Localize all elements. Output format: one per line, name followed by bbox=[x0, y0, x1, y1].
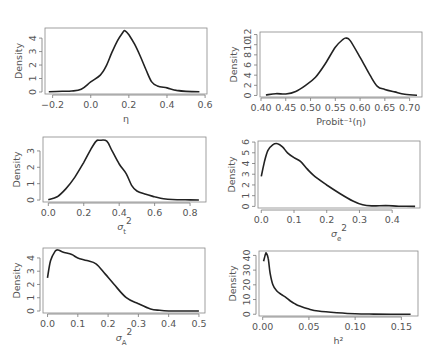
x-tick-label: 0.5 bbox=[191, 318, 206, 329]
x-axis-title: h² bbox=[334, 335, 344, 346]
x-axis-title: σA2 bbox=[116, 327, 133, 347]
x-tick-label: 0.0 bbox=[83, 99, 98, 110]
density-panel-3: 0.00.20.40.60.80123Densityσt2 bbox=[11, 137, 206, 236]
x-tick-label: 0.0 bbox=[254, 214, 269, 225]
y-tick-label: 4 bbox=[240, 160, 251, 166]
x-tick-label: 0.45 bbox=[275, 102, 296, 113]
x-tick-label: 0.2 bbox=[121, 99, 136, 110]
y-tick-label: 2 bbox=[27, 62, 38, 68]
y-tick-label: 3 bbox=[240, 171, 251, 177]
x-tick-label: 0.40 bbox=[250, 102, 271, 113]
y-tick-label: 6 bbox=[240, 139, 251, 145]
y-tick-label: 20 bbox=[241, 279, 252, 291]
x-tick-label: 0.1 bbox=[70, 318, 85, 329]
x-axis-title: η bbox=[123, 113, 129, 124]
plot-frame bbox=[45, 28, 207, 94]
density-panel-5: 0.00.10.20.30.40.501234DensityσA2 bbox=[11, 248, 206, 347]
y-tick-label: 0 bbox=[240, 203, 251, 209]
y-axis-title: Density bbox=[13, 43, 24, 79]
y-tick-label: 2 bbox=[240, 182, 251, 188]
y-tick-label: 0 bbox=[241, 311, 252, 317]
y-tick-label: 3 bbox=[25, 148, 36, 154]
density-curve bbox=[261, 144, 415, 207]
x-tick-label: 0.2 bbox=[101, 318, 116, 329]
x-tick-label: 0.4 bbox=[112, 207, 127, 218]
y-axis-title: Density bbox=[11, 151, 22, 187]
x-tick-label: 0.55 bbox=[325, 102, 346, 113]
x-tick-label: 0.0 bbox=[40, 318, 55, 329]
y-tick-label: 6 bbox=[242, 62, 253, 68]
plot-frame bbox=[259, 251, 418, 316]
x-tick-label: 0.65 bbox=[374, 102, 395, 113]
x-tick-label: −0.2 bbox=[41, 99, 64, 110]
x-tick-label: 0.4 bbox=[161, 318, 176, 329]
x-tick-label: 0.70 bbox=[399, 102, 420, 113]
y-tick-label: 30 bbox=[241, 264, 252, 276]
x-tick-label: 0.3 bbox=[131, 318, 146, 329]
density-curve bbox=[264, 253, 411, 314]
density-curve bbox=[266, 38, 417, 95]
x-tick-label: 0.8 bbox=[182, 207, 197, 218]
x-tick-label: 0.50 bbox=[300, 102, 321, 113]
y-tick-label: 8 bbox=[242, 52, 253, 58]
y-tick-label: 12 bbox=[242, 28, 253, 40]
x-tick-label: 0.4 bbox=[159, 99, 174, 110]
y-axis-title: Density bbox=[227, 265, 238, 301]
density-panel-2: 0.400.450.500.550.600.650.70024681012Den… bbox=[228, 28, 422, 127]
y-tick-label: 1 bbox=[25, 181, 36, 187]
x-tick-label: 0.3 bbox=[352, 214, 367, 225]
x-tick-label: 0.10 bbox=[345, 321, 366, 332]
plot-frame bbox=[43, 248, 205, 313]
density-panel-4: 0.00.10.20.30.40123456Densityσe2 bbox=[226, 139, 420, 243]
density-curve bbox=[48, 140, 199, 200]
y-tick-label: 0 bbox=[242, 92, 253, 98]
y-axis-title: Density bbox=[228, 46, 239, 82]
y-tick-label: 2 bbox=[25, 164, 36, 170]
plot-frame bbox=[43, 137, 206, 202]
density-plot-grid: −0.20.00.20.40.601234Densityη0.400.450.5… bbox=[0, 0, 435, 360]
y-tick-label: 0 bbox=[27, 89, 38, 95]
density-panel-1: −0.20.00.20.40.601234Densityη bbox=[13, 28, 213, 124]
x-tick-label: 0.4 bbox=[385, 214, 400, 225]
density-curve bbox=[49, 30, 200, 91]
y-tick-label: 40 bbox=[241, 249, 252, 261]
y-tick-label: 10 bbox=[241, 293, 252, 305]
y-tick-label: 1 bbox=[27, 75, 38, 81]
x-axis-title: σt2 bbox=[117, 216, 132, 236]
y-tick-label: 0 bbox=[25, 197, 36, 203]
x-tick-label: 0.15 bbox=[391, 321, 412, 332]
plot-frame bbox=[258, 141, 420, 208]
x-axis-title: σe2 bbox=[331, 223, 347, 243]
x-tick-label: 0.00 bbox=[252, 321, 273, 332]
x-tick-label: 0.60 bbox=[349, 102, 370, 113]
y-tick-label: 5 bbox=[240, 150, 251, 156]
x-tick-label: 0.6 bbox=[147, 207, 162, 218]
y-tick-label: 1 bbox=[240, 193, 251, 199]
y-tick-label: 2 bbox=[242, 82, 253, 88]
y-axis-title: Density bbox=[226, 156, 237, 192]
y-axis-title: Density bbox=[11, 262, 22, 298]
x-tick-label: 0.2 bbox=[76, 207, 91, 218]
x-tick-label: 0.2 bbox=[319, 214, 334, 225]
y-tick-label: 4 bbox=[27, 35, 38, 41]
y-tick-label: 4 bbox=[242, 72, 253, 78]
y-tick-label: 2 bbox=[25, 281, 36, 287]
x-tick-label: 0.6 bbox=[198, 99, 213, 110]
x-tick-label: 0.0 bbox=[41, 207, 56, 218]
y-tick-label: 4 bbox=[25, 255, 36, 261]
y-tick-label: 3 bbox=[27, 49, 38, 55]
y-tick-label: 3 bbox=[25, 268, 36, 274]
y-tick-label: 0 bbox=[25, 308, 36, 314]
x-tick-label: 0.1 bbox=[286, 214, 301, 225]
y-tick-label: 1 bbox=[25, 295, 36, 301]
x-tick-label: 0.05 bbox=[298, 321, 319, 332]
density-curve bbox=[48, 250, 199, 311]
density-panel-6: 0.000.050.100.15010203040Densityh² bbox=[227, 249, 418, 346]
x-axis-title: Probit⁻¹(η) bbox=[316, 116, 366, 127]
